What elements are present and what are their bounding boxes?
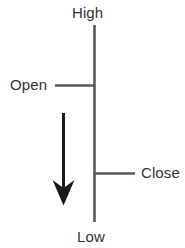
close-label: Close bbox=[141, 165, 180, 180]
high-label: High bbox=[72, 5, 103, 20]
low-label: Low bbox=[77, 229, 105, 244]
ohlc-bar-diagram: High Open Close Low bbox=[0, 0, 185, 248]
open-label: Open bbox=[10, 77, 47, 92]
ohlc-bar-graphic bbox=[0, 0, 185, 248]
